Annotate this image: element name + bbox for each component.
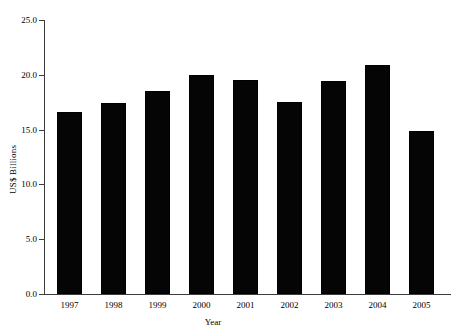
bar: [277, 102, 302, 294]
bar: [101, 103, 126, 294]
y-tick-label: 25.0: [1, 15, 37, 25]
y-tick-mark: [39, 20, 44, 21]
x-tick-label: 1997: [61, 300, 79, 310]
bar: [57, 112, 82, 294]
y-tick-mark: [39, 294, 44, 295]
x-axis-title-label: Year: [205, 317, 222, 327]
y-tick-label: 20.0: [1, 70, 37, 80]
x-tick-label: 2004: [369, 300, 387, 310]
x-tick-label: 1998: [105, 300, 123, 310]
y-tick-mark: [39, 130, 44, 131]
x-axis-line: [44, 294, 451, 295]
y-tick-mark: [39, 239, 44, 240]
y-tick-label: 10.0: [1, 179, 37, 189]
bar: [409, 131, 434, 294]
plot-area: [45, 20, 451, 294]
bar: [365, 65, 390, 294]
bar: [145, 91, 170, 294]
bar: [233, 80, 258, 294]
y-tick-mark: [39, 75, 44, 76]
x-axis-title: Year: [0, 317, 462, 327]
bar-chart-figure: US$ Billions 0.05.010.015.020.025.0 1997…: [0, 0, 462, 335]
x-tick-label: 2005: [413, 300, 431, 310]
y-tick-label: 5.0: [1, 234, 37, 244]
y-tick-mark: [39, 184, 44, 185]
x-tick-label: 2000: [193, 300, 211, 310]
y-tick-label: 15.0: [1, 125, 37, 135]
bar: [189, 75, 214, 294]
y-axis-title: US$ Billions: [6, 124, 20, 214]
x-tick-label: 2002: [281, 300, 299, 310]
x-tick-label: 2001: [237, 300, 255, 310]
y-tick-label: 0.0: [1, 289, 37, 299]
bar: [321, 81, 346, 294]
x-tick-label: 2003: [325, 300, 343, 310]
x-tick-label: 1999: [149, 300, 167, 310]
